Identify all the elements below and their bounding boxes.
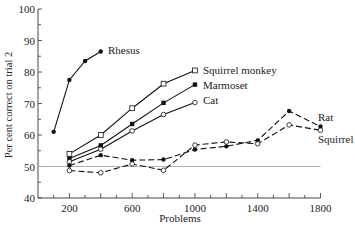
series-label: Squirrel — [318, 133, 353, 145]
marker-filled-square — [161, 101, 165, 105]
marker-filled-circle — [83, 59, 87, 63]
y-tick-label: 100 — [19, 3, 36, 15]
marker-filled-circle — [99, 153, 103, 157]
series-label: Rhesus — [108, 44, 140, 56]
marker-filled-circle — [287, 109, 291, 113]
marker-open-square — [98, 133, 103, 138]
marker-open-circle — [193, 143, 198, 148]
marker-filled-circle — [67, 78, 71, 82]
marker-open-square — [193, 68, 198, 73]
y-tick-label: 50 — [24, 161, 36, 173]
marker-open-circle — [98, 171, 103, 176]
x-tick-label: 200 — [61, 202, 78, 214]
marker-filled-circle — [193, 147, 197, 151]
series-label: Marmoset — [203, 79, 248, 91]
marker-filled-square — [193, 82, 197, 86]
y-tick-label: 90 — [24, 35, 36, 47]
marker-open-circle — [130, 162, 135, 167]
y-axis-label: Per cent correct on trial 2 — [3, 52, 14, 158]
x-tick-label: 600 — [124, 202, 141, 214]
marker-open-circle — [255, 142, 260, 147]
y-tick-label: 70 — [24, 98, 36, 110]
marker-filled-circle — [161, 157, 165, 161]
marker-open-circle — [287, 123, 292, 128]
marker-filled-circle — [224, 144, 228, 148]
marker-open-circle — [193, 100, 198, 105]
series-rhesus — [51, 49, 102, 134]
marker-open-circle — [130, 129, 135, 134]
marker-filled-circle — [99, 49, 103, 53]
marker-open-square — [130, 106, 135, 111]
marker-filled-circle — [51, 130, 55, 134]
series-squirrel-monkey — [67, 68, 197, 156]
x-axis-label: Problems — [159, 212, 201, 224]
series-group — [51, 49, 322, 175]
marker-open-square — [161, 81, 166, 86]
marker-open-circle — [98, 147, 103, 152]
series-label: Rat — [318, 111, 333, 123]
marker-filled-circle — [67, 163, 71, 167]
series-marmoset — [67, 82, 197, 160]
y-tick-label: 40 — [24, 192, 36, 204]
marker-open-circle — [67, 168, 72, 173]
marker-open-circle — [318, 128, 323, 133]
x-tick-label: 1400 — [247, 202, 270, 214]
series-label: Squirrel monkey — [203, 64, 277, 76]
series-rat — [67, 109, 323, 168]
axes: 405060708090100200600100014001800 — [19, 3, 333, 214]
line-chart: 405060708090100200600100014001800 Rhesus… — [0, 0, 355, 227]
marker-filled-square — [130, 122, 134, 126]
series-label: Cat — [203, 94, 218, 106]
marker-open-circle — [224, 140, 229, 145]
y-tick-label: 60 — [24, 129, 36, 141]
marker-open-circle — [161, 112, 166, 117]
marker-open-circle — [161, 168, 166, 173]
y-tick-label: 80 — [24, 66, 36, 78]
marker-open-square — [67, 152, 72, 157]
x-tick-label: 1800 — [310, 202, 333, 214]
